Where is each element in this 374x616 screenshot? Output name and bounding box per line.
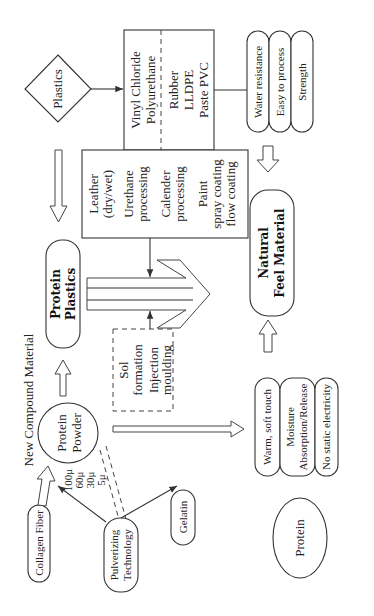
property-moisture: Absorption/Release [297, 384, 309, 471]
pulverizing-to-gelatin-arrow [121, 486, 177, 518]
plastics-node: Plastics [25, 55, 91, 122]
protein-powder-label: Powder [69, 412, 84, 452]
sol-item: formation [130, 344, 145, 396]
processing-box: Leather (dry/wet) Urethane processing Ca… [82, 150, 248, 238]
powder-to-plastics-arrow [55, 360, 71, 396]
process-item: processing [135, 166, 150, 222]
sol-injection-box: Sol formation Injection moulding [113, 329, 174, 411]
protein-powder-label: Protein [54, 414, 69, 452]
plastic-type: Rubber [166, 70, 181, 109]
protein-plastics-label: Protein [49, 269, 63, 319]
plastics-label: Plastics [50, 69, 65, 109]
process-item: Urethane [121, 170, 136, 218]
diagram-canvas: New Compound Material Plastics Vinyl Chl… [0, 0, 374, 616]
process-item: Leather [86, 173, 101, 213]
natural-feel-label: Feel Material [273, 208, 287, 298]
plastic-types-box: Vinyl Chloride Polyurethane Rubber LLDPE… [124, 30, 214, 150]
process-item: Calender [158, 170, 173, 218]
plastic-type: LLDPE [181, 70, 196, 111]
property-no-static: No static electricity [320, 383, 332, 470]
process-item: processing [172, 166, 187, 222]
gelatin-label: Gelatin [177, 500, 189, 533]
collagen-to-powder-arrow [37, 466, 55, 506]
gelatin-node: Gelatin [171, 490, 195, 545]
plastic-properties: Water resistance Easy to process Strengt… [247, 31, 313, 132]
sol-item: Sol [116, 361, 131, 379]
plastic-type: Polyurethane [143, 55, 158, 124]
protein-plastics-node: Protein Plastics [46, 240, 80, 348]
process-item: spray coating [209, 159, 224, 229]
powder-to-properties-arrow [113, 421, 244, 437]
collagen-fiber-label: Collagen Fiber [33, 510, 45, 576]
property-moisture: Moisture [284, 407, 296, 447]
flow-diagram: New Compound Material Plastics Vinyl Chl… [0, 0, 374, 616]
process-item: Paint [195, 180, 210, 207]
plastic-type: Paste PVC [196, 62, 211, 118]
pulverizing-node: Pulverizing Technology [104, 518, 138, 592]
protein-plastics-label: Plastics [64, 268, 78, 321]
sol-item: moulding [159, 345, 174, 395]
property-warm-soft-touch: Warm, soft touch [261, 389, 273, 465]
pulverizing-to-powder-arrow [58, 486, 106, 522]
plastic-type: Vinyl Chloride [128, 51, 143, 129]
protein-label: Protein [292, 519, 307, 557]
property-easy-to-process: Easy to process [274, 48, 286, 116]
natural-feel-label: Natural [257, 227, 271, 279]
particle-size: 5μ [95, 474, 107, 486]
collagen-fiber-node: Collagen Fiber [28, 505, 50, 582]
property-water-resistance: Water resistance [252, 46, 264, 118]
plastics-to-protein-plastics-arrow [50, 150, 67, 222]
protein-node: Protein [273, 498, 327, 578]
process-item: (dry/wet) [100, 170, 115, 218]
main-transform-arrow [87, 260, 210, 328]
protein-props-to-natural-arrow [259, 320, 277, 352]
process-item: flow coating [223, 161, 238, 227]
property-strength: Strength [296, 63, 308, 101]
pulverizing-label: Technology [121, 529, 133, 581]
diagram-title: New Compound Material [21, 333, 36, 466]
pulverizing-label: Pulverizing [108, 529, 120, 580]
natural-feel-material-node: Natural Feel Material [250, 190, 294, 316]
protein-properties: Warm, soft touch Moisture Absorption/Rel… [255, 378, 338, 476]
properties-to-natural-arrow [257, 146, 279, 172]
